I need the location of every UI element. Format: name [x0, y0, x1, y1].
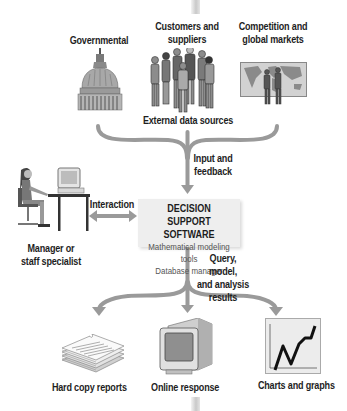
label-hard-copy-reports: Hard copy reports — [52, 381, 124, 394]
label-query-line2: and analysis — [195, 278, 252, 291]
label-governmental: Governmental — [65, 34, 132, 47]
world-map-icon — [240, 62, 308, 106]
manager-at-desk-icon — [14, 166, 90, 240]
interaction-arrowhead-right — [129, 210, 137, 222]
label-customers-line2: suppliers — [147, 33, 228, 46]
merge-brace-left — [98, 126, 187, 158]
label-manager-staff: Manager or staff specialist — [14, 242, 88, 268]
label-customers-line1: Customers and — [147, 20, 228, 33]
line-chart-icon — [265, 318, 321, 374]
label-external-data-sources: External data sources — [140, 114, 236, 127]
label-competition-line1: Competition and — [234, 20, 311, 33]
label-input-feedback: Input and feedback — [192, 152, 235, 178]
input-arrowhead — [181, 185, 194, 194]
split-left — [99, 282, 187, 309]
dss-title-line2: SOFTWARE — [145, 228, 233, 241]
paper-stack-icon — [60, 334, 126, 374]
label-input-line2: feedback — [192, 165, 235, 178]
label-competition-markets: Competition and global markets — [234, 20, 311, 46]
decision-support-software-box: DECISION SUPPORT SOFTWARE Mathematical m… — [138, 199, 240, 247]
dss-title: DECISION SUPPORT SOFTWARE — [145, 202, 233, 241]
capitol-dome-icon — [76, 48, 124, 112]
label-query-results: Query, model, and analysis results — [195, 252, 252, 304]
label-manager-line2: staff specialist — [14, 255, 88, 268]
label-charts-graphs: Charts and graphs — [258, 379, 330, 392]
label-manager-line1: Manager or — [14, 242, 88, 255]
interaction-arrowhead-left — [89, 210, 97, 222]
output-arrowhead-right — [269, 307, 283, 316]
dss-title-line1: DECISION SUPPORT — [145, 202, 233, 228]
output-arrowhead-center — [181, 305, 194, 313]
label-query-line1: Query, model, — [195, 252, 252, 278]
label-query-line3: results — [195, 291, 252, 304]
computer-monitor-icon — [158, 318, 214, 378]
label-input-line1: Input and — [192, 152, 235, 165]
people-group-icon — [147, 48, 219, 114]
label-online-response: Online response — [151, 381, 213, 394]
label-competition-line2: global markets — [234, 33, 311, 46]
label-interaction: Interaction — [88, 198, 136, 211]
output-arrowhead-left — [92, 307, 106, 316]
label-customers-suppliers: Customers and suppliers — [147, 20, 228, 46]
